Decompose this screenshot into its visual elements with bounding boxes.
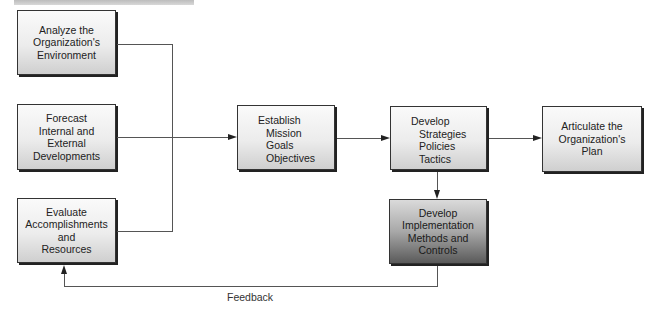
feedback-line-up: [64, 273, 65, 287]
node-text: Implementation: [402, 219, 474, 232]
node-item: Mission: [258, 127, 334, 140]
connector-forecast-to-establish: [117, 137, 229, 138]
arrow-right-icon: [228, 134, 237, 140]
node-text: Controls: [418, 244, 457, 257]
node-item: Strategies: [411, 128, 486, 141]
node-text: External: [47, 137, 86, 150]
node-text: Analyze the: [39, 24, 94, 37]
node-text: Internal and: [39, 125, 94, 138]
node-item: Tactics: [411, 153, 486, 166]
node-item: Objectives: [258, 152, 334, 165]
node-text: Forecast: [46, 112, 87, 125]
arrow-up-icon: [61, 265, 67, 274]
node-item: Goals: [258, 139, 334, 152]
node-develop-strategies: Develop Strategies Policies Tactics: [390, 106, 487, 170]
arrow-right-icon: [381, 135, 390, 141]
node-text: Environment: [37, 49, 96, 62]
node-articulate: Articulate the Organization's Plan: [542, 106, 642, 172]
header-bar-fragment: [14, 0, 194, 5]
arrow-down-icon: [434, 190, 440, 199]
node-item: Policies: [411, 140, 486, 153]
node-text: Develop: [419, 207, 458, 220]
node-text: Resources: [41, 243, 91, 256]
node-text: Plan: [581, 145, 602, 158]
node-text: and: [58, 231, 76, 244]
connector-develop-to-implementation: [437, 172, 438, 191]
node-establish: Establish Mission Goals Objectives: [237, 105, 335, 170]
feedback-label: Feedback: [227, 291, 273, 303]
node-text: Organization's: [33, 36, 100, 49]
node-text: Evaluate: [46, 206, 87, 219]
node-text: Organization's: [559, 133, 626, 146]
feedback-line-down: [437, 266, 438, 287]
node-text: Accomplishments: [25, 218, 107, 231]
connector-analyze: [117, 44, 173, 45]
node-text: Developments: [33, 150, 100, 163]
node-forecast: Forecast Internal and External Developme…: [17, 104, 116, 170]
node-implementation: Develop Implementation Methods and Contr…: [389, 199, 487, 264]
connector-establish-to-develop: [337, 138, 382, 139]
connector-vertical-merge: [172, 44, 173, 232]
node-text: Methods and: [408, 232, 469, 245]
node-title: Develop: [411, 115, 486, 128]
node-analyze: Analyze the Organization's Environment: [17, 10, 116, 75]
node-title: Establish: [258, 114, 334, 127]
node-evaluate: Evaluate Accomplishments and Resources: [17, 198, 116, 263]
connector-develop-to-articulate: [489, 138, 534, 139]
connector-evaluate: [117, 231, 173, 232]
feedback-line-horizontal: [64, 286, 438, 287]
node-text: Articulate the: [561, 120, 622, 133]
arrow-right-icon: [533, 135, 542, 141]
